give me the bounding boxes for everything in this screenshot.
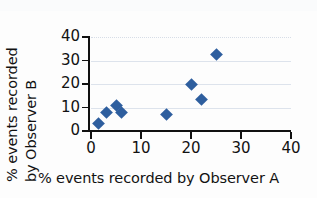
y-tick-label-10: 10 xyxy=(54,100,80,115)
y-axis-tick-labels: 010203040 xyxy=(52,0,80,160)
plot-area xyxy=(91,37,291,131)
data-point xyxy=(195,93,208,106)
x-tick-40 xyxy=(290,132,292,139)
x-tick-20 xyxy=(190,132,192,139)
y-axis-title-line-2: by Observer B xyxy=(23,80,39,182)
y-tick-label-0: 0 xyxy=(54,123,80,138)
data-point xyxy=(185,78,198,91)
y-tick-label-20: 20 xyxy=(54,76,80,91)
y-axis-title: % events recorded by Observer B xyxy=(0,8,56,188)
x-tick-label-20: 20 xyxy=(176,141,206,156)
scatter-plot-figure: % events recorded by Observer B 01020304… xyxy=(0,0,317,198)
y-tick-10 xyxy=(82,107,89,109)
x-tick-label-0: 0 xyxy=(76,141,106,156)
x-tick-label-30: 30 xyxy=(226,141,256,156)
y-tick-30 xyxy=(82,60,89,62)
gridline-y-40 xyxy=(91,37,291,39)
data-point xyxy=(92,118,105,131)
x-tick-30 xyxy=(240,132,242,139)
data-point xyxy=(160,108,173,121)
data-point xyxy=(210,48,223,61)
gridline-y-30 xyxy=(91,61,291,62)
y-tick-label-30: 30 xyxy=(54,53,80,68)
x-tick-10 xyxy=(140,132,142,139)
x-tick-0 xyxy=(90,132,92,139)
y-tick-20 xyxy=(82,83,89,85)
y-axis-title-line-1: % events recorded xyxy=(4,47,20,182)
y-tick-label-40: 40 xyxy=(54,29,80,44)
y-tick-0 xyxy=(82,130,89,132)
x-axis-title: % events recorded by Observer A xyxy=(0,170,317,186)
x-tick-label-40: 40 xyxy=(276,141,306,156)
x-tick-label-10: 10 xyxy=(126,141,156,156)
y-tick-40 xyxy=(82,36,89,38)
